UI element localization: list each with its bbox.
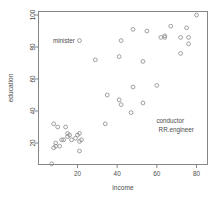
data-point bbox=[50, 162, 54, 166]
x-tick-label: 20 bbox=[74, 170, 82, 177]
data-point bbox=[187, 42, 191, 46]
data-point bbox=[187, 36, 191, 40]
point-labels: ministerconductorRR.engineer bbox=[53, 37, 194, 135]
data-point bbox=[78, 149, 82, 153]
y-tick-label: 60 bbox=[29, 75, 36, 83]
y-tick-label: 100 bbox=[29, 9, 36, 20]
y-axis-ticks: 20406080100 bbox=[29, 9, 39, 146]
data-point bbox=[119, 103, 123, 107]
data-point bbox=[131, 85, 135, 89]
x-axis-ticks: 20406080 bbox=[74, 165, 201, 177]
data-point bbox=[58, 144, 62, 148]
data-point bbox=[141, 60, 145, 64]
data-point bbox=[145, 29, 149, 33]
data-point bbox=[117, 98, 121, 102]
data-point bbox=[117, 55, 121, 59]
point-label-conductor: conductor bbox=[156, 117, 184, 124]
data-point bbox=[52, 122, 56, 126]
plot-canvas: 20406080100 20406080 ministerconductorRR… bbox=[0, 0, 221, 200]
point-label-rr-engineer: RR.engineer bbox=[159, 126, 194, 134]
data-point bbox=[141, 101, 145, 105]
data-point bbox=[78, 39, 82, 43]
x-tick-label: 40 bbox=[114, 170, 122, 177]
y-tick-label: 20 bbox=[29, 139, 36, 147]
data-point bbox=[119, 39, 123, 43]
data-point bbox=[195, 13, 199, 17]
scatterplot-figure: 20406080100 20406080 ministerconductorRR… bbox=[0, 0, 221, 200]
data-point bbox=[185, 26, 189, 30]
data-point bbox=[103, 122, 107, 126]
data-point bbox=[56, 125, 60, 129]
y-tick-label: 80 bbox=[29, 43, 36, 51]
data-point bbox=[64, 125, 68, 129]
data-point bbox=[155, 84, 159, 88]
data-point bbox=[159, 36, 163, 40]
data-point bbox=[93, 58, 97, 62]
data-point bbox=[131, 28, 135, 32]
y-tick-label: 40 bbox=[29, 107, 36, 115]
data-point bbox=[129, 111, 133, 115]
x-axis-title: income bbox=[112, 184, 134, 191]
x-tick-label: 60 bbox=[153, 170, 161, 177]
x-tick-label: 80 bbox=[193, 170, 201, 177]
y-axis-title: education bbox=[7, 73, 14, 102]
data-point bbox=[70, 138, 74, 142]
data-point bbox=[105, 93, 109, 97]
data-point bbox=[169, 24, 173, 28]
data-point bbox=[179, 52, 183, 56]
point-label-minister: minister bbox=[53, 37, 75, 44]
data-point bbox=[179, 36, 183, 40]
